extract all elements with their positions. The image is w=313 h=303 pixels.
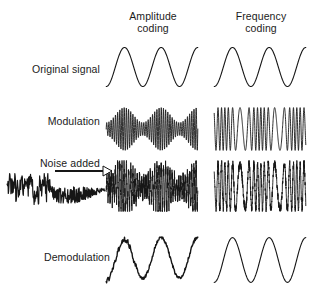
waveform-modulation-amplitude [104,103,200,155]
waveform-original-amplitude [104,44,200,90]
row-label-demodulation: Demodulation [0,251,110,263]
waveform-modulation-frequency [212,103,308,155]
waveform-noisy-frequency [212,158,308,214]
column-header-amplitude-line2: coding [103,22,203,34]
row-label-original-signal: Original signal [0,63,100,75]
waveform-noisy-amplitude [104,158,200,214]
row-label-modulation: Modulation [0,115,100,127]
column-header-frequency-line1: Frequency [236,10,287,22]
waveform-demodulation-amplitude [104,234,200,286]
column-header-frequency-coding: Frequency coding [211,10,311,34]
waveform-original-frequency [212,44,308,90]
waveform-demodulation-frequency [212,234,308,286]
column-header-frequency-line2: coding [211,22,311,34]
column-header-amplitude-coding: Amplitude coding [103,10,203,34]
column-header-amplitude-line1: Amplitude [129,10,177,22]
signal-coding-figure: Amplitude coding Frequency coding Origin… [0,0,313,303]
